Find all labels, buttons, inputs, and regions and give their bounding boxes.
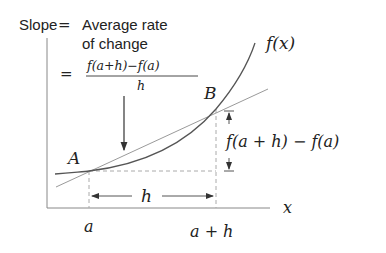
rise-label: f(a + h) − f(a) <box>225 132 339 151</box>
formula-numerator: f(a+h)−f(a) <box>86 58 160 73</box>
tick-a-plus-h-label: a + h <box>190 222 233 241</box>
average-rate-of-change-diagram: Slope = Average rate of change = f(a+h)−… <box>0 0 386 253</box>
formula-denominator: h <box>137 78 145 93</box>
title-average-rate: Average rate <box>82 16 168 33</box>
run-label: h <box>141 186 152 206</box>
point-b-label: B <box>203 83 217 103</box>
x-axis-label: x <box>283 198 292 217</box>
tick-a-label: a <box>84 217 94 236</box>
curve-label: f(x) <box>264 33 295 53</box>
title-of-change: of change <box>82 35 148 52</box>
title-slope: Slope <box>19 16 57 33</box>
formula-equals: = <box>60 65 73 83</box>
title-equals: = <box>58 16 71 34</box>
point-a-label: A <box>66 148 80 168</box>
